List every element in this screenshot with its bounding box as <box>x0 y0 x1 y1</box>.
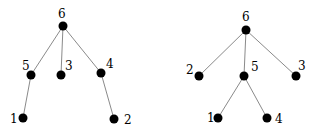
node-4 <box>97 69 106 78</box>
node-label: 3 <box>65 59 73 73</box>
node-label: 3 <box>298 59 306 73</box>
right-tree: 625314 <box>186 10 306 126</box>
edge-6-5 <box>244 30 246 76</box>
node-label: 4 <box>275 112 283 126</box>
edge-5-1 <box>23 75 31 118</box>
node-1 <box>19 114 28 123</box>
node-2 <box>195 72 204 81</box>
edge-6-2 <box>199 30 246 76</box>
tree-diagram: 653412625314 <box>0 0 319 133</box>
left-tree: 653412 <box>10 7 132 127</box>
node-5 <box>240 72 249 81</box>
node-2 <box>110 115 119 124</box>
edge-4-2 <box>101 73 114 119</box>
edge-6-5 <box>31 26 63 75</box>
node-4 <box>263 114 272 123</box>
edge-5-4 <box>244 76 267 118</box>
edge-5-1 <box>218 76 244 118</box>
node-1 <box>214 114 223 123</box>
node-label: 1 <box>10 112 18 126</box>
node-label: 6 <box>242 10 250 24</box>
node-6 <box>59 22 68 31</box>
node-label: 5 <box>22 59 30 73</box>
node-label: 5 <box>251 60 259 74</box>
node-label: 1 <box>207 111 215 125</box>
node-label: 2 <box>124 113 132 127</box>
node-label: 2 <box>186 63 194 77</box>
node-6 <box>242 26 251 35</box>
node-label: 4 <box>106 57 114 71</box>
edge-6-3 <box>61 26 63 75</box>
node-label: 6 <box>58 7 66 21</box>
